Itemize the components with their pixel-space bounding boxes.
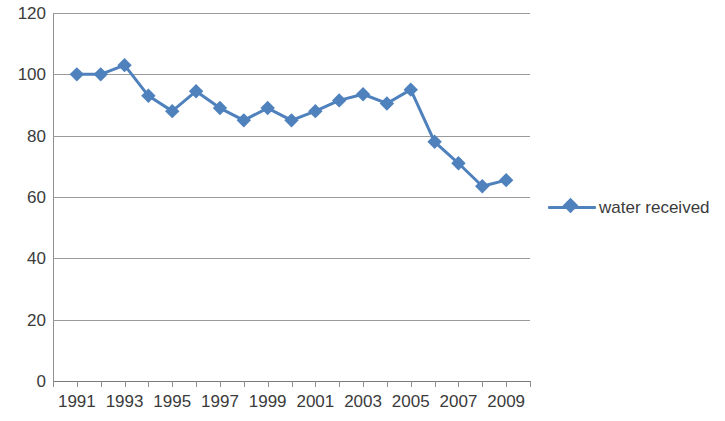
x-tick-2003: [363, 381, 364, 387]
x-tick-1998: [244, 381, 245, 387]
y-tick-label-120: 120: [4, 5, 46, 22]
gridline-80: [53, 136, 530, 137]
x-tick-1993: [125, 381, 126, 387]
x-tick-label-1995: 1995: [153, 393, 191, 410]
x-tick-1991: [77, 381, 78, 387]
y-tick-label-40: 40: [4, 250, 46, 267]
x-tick-1996: [196, 381, 197, 387]
y-tick-label-0: 0: [4, 373, 46, 390]
x-tick-label-1991: 1991: [58, 393, 96, 410]
gridline-40: [53, 258, 530, 259]
y-tick-label-100: 100: [4, 66, 46, 83]
x-tick-2005: [411, 381, 412, 387]
y-tick-label-20: 20: [4, 311, 46, 328]
legend-label-water-received: water received: [599, 199, 710, 216]
gridline-100: [53, 74, 530, 75]
x-tick-2007: [458, 381, 459, 387]
x-tick-label-1999: 1999: [249, 393, 287, 410]
legend-diamond-icon: [563, 198, 579, 214]
x-tick-2001: [315, 381, 316, 387]
x-tick-label-2003: 2003: [344, 393, 382, 410]
x-tick-1992: [101, 381, 102, 387]
y-tick-label-80: 80: [4, 127, 46, 144]
x-tick-2010: [530, 381, 531, 387]
x-tick-label-2005: 2005: [392, 393, 430, 410]
x-tick-label-2001: 2001: [296, 393, 334, 410]
x-tick-label-2009: 2009: [487, 393, 525, 410]
gridline-120: [53, 13, 530, 14]
x-tick-1990: [53, 381, 54, 387]
x-tick-label-1993: 1993: [106, 393, 144, 410]
x-tick-2002: [339, 381, 340, 387]
gridline-20: [53, 320, 530, 321]
gridline-60: [53, 197, 530, 198]
x-tick-label-2007: 2007: [440, 393, 478, 410]
x-tick-2000: [292, 381, 293, 387]
x-tick-1995: [172, 381, 173, 387]
x-tick-label-1997: 1997: [201, 393, 239, 410]
x-tick-1999: [268, 381, 269, 387]
x-tick-2008: [482, 381, 483, 387]
line-chart: 120100806040200 199119931995199719992001…: [0, 0, 725, 421]
x-tick-2006: [435, 381, 436, 387]
plot-area: [53, 13, 530, 381]
y-tick-label-60: 60: [4, 189, 46, 206]
x-tick-2009: [506, 381, 507, 387]
x-tick-1997: [220, 381, 221, 387]
x-tick-1994: [148, 381, 149, 387]
chart-legend: water received: [548, 198, 710, 216]
legend-marker-water-received: [548, 198, 596, 216]
y-axis-tick-labels: 120100806040200: [0, 0, 46, 421]
x-tick-2004: [387, 381, 388, 387]
